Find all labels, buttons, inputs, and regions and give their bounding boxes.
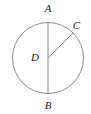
circle-diagram-figure: A B C D <box>0 0 91 114</box>
geometry-canvas: A B C D <box>0 0 91 114</box>
point-label-c: C <box>73 19 81 31</box>
point-label-d: D <box>30 51 39 63</box>
point-label-b: B <box>45 99 52 111</box>
point-label-a: A <box>44 2 52 14</box>
figure-background <box>0 0 91 114</box>
